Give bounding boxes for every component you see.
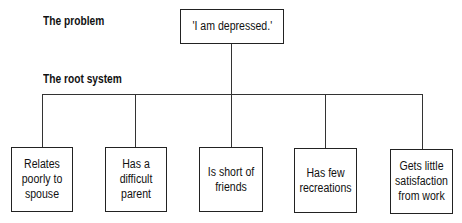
drop-line-3	[231, 94, 232, 147]
root-box-5: Gets little satisfaction from work	[390, 149, 453, 214]
root-text-2: Has a difficult parent	[116, 157, 156, 202]
root-box-3: Is short of friends	[199, 147, 263, 212]
root-system-label: The root system	[43, 72, 122, 86]
root-text-3: Is short of friends	[206, 165, 255, 195]
root-box-2: Has a difficult parent	[105, 147, 167, 212]
problem-label: The problem	[43, 14, 104, 28]
drop-line-1	[42, 94, 43, 147]
problem-box: 'I am depressed.'	[180, 9, 284, 44]
problem-text: 'I am depressed.'	[192, 19, 272, 34]
root-box-1: Relates poorly to spouse	[11, 147, 73, 212]
drop-line-4	[325, 94, 326, 148]
root-box-4: Has few recreations	[294, 148, 357, 213]
stem-line	[231, 44, 232, 94]
root-text-1: Relates poorly to spouse	[20, 157, 64, 202]
drop-line-2	[135, 94, 136, 147]
root-text-4: Has few recreations	[299, 166, 353, 196]
branch-line	[42, 94, 423, 95]
drop-line-5	[422, 94, 423, 149]
root-text-5: Gets little satisfaction from work	[395, 159, 449, 204]
